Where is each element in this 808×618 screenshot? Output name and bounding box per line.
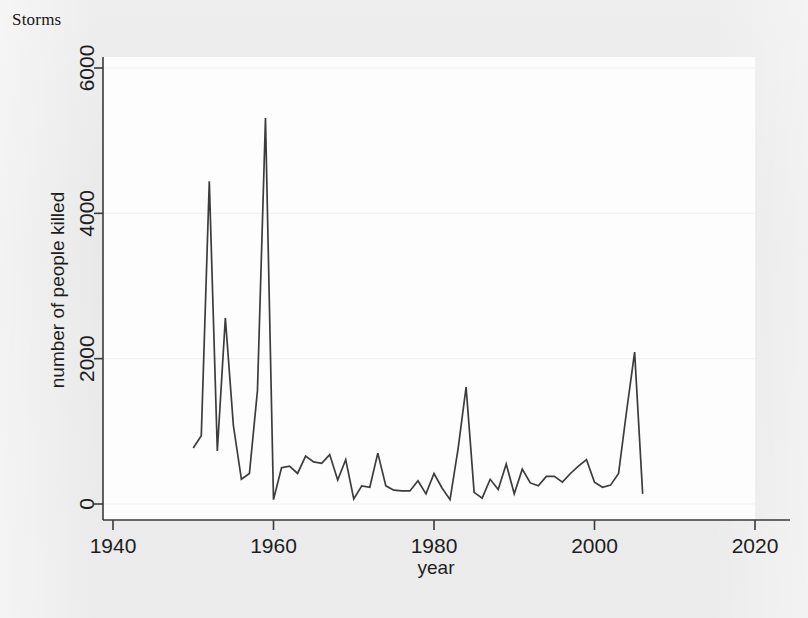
chart-figure: 0200040006000 19401960198020002020 numbe… xyxy=(0,0,808,618)
x-tick-label: 1940 xyxy=(90,534,137,557)
page-background: Storms 0200040006000 1940196019802000202… xyxy=(0,0,808,618)
x-tick-label: 1980 xyxy=(411,534,458,557)
line-chart-svg: 0200040006000 19401960198020002020 numbe… xyxy=(0,0,808,618)
y-tick-label: 6000 xyxy=(75,45,98,92)
y-tick-label: 4000 xyxy=(75,190,98,237)
y-axis-ticks: 0200040006000 xyxy=(75,45,103,510)
x-tick-label: 2000 xyxy=(571,534,618,557)
x-axis-title: year xyxy=(418,557,456,578)
x-tick-label: 1960 xyxy=(250,534,297,557)
x-axis-ticks: 19401960198020002020 xyxy=(90,520,779,557)
y-tick-label: 0 xyxy=(75,498,98,510)
plot-area-background xyxy=(103,57,755,520)
y-tick-label: 2000 xyxy=(75,335,98,382)
x-tick-label: 2020 xyxy=(732,534,779,557)
y-axis-title: number of people killed xyxy=(47,192,68,388)
